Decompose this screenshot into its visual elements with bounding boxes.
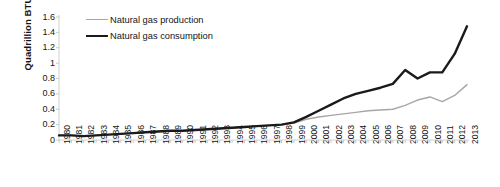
legend-entry: Natural gas production xyxy=(86,12,296,27)
legend-label: Natural gas consumption xyxy=(110,31,213,41)
legend-swatch-icon xyxy=(86,19,108,20)
series-line xyxy=(59,85,467,137)
legend-label: Natural gas production xyxy=(110,15,204,25)
legend-entry: Natural gas consumption xyxy=(86,28,296,43)
legend-swatch-icon xyxy=(86,35,108,37)
line-chart: Quadrillion BTU 1.61.41.210.80.60.40.20 … xyxy=(0,0,500,187)
chart-legend: Natural gas productionNatural gas consum… xyxy=(86,12,296,44)
